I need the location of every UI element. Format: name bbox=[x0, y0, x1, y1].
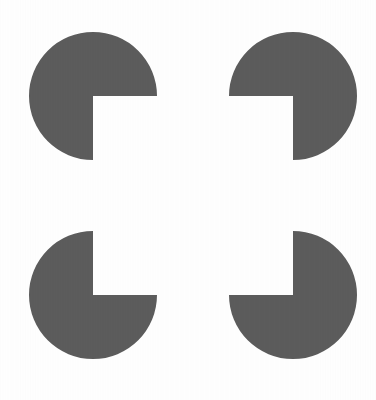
inducer-disc-layer bbox=[0, 0, 376, 400]
kanizsa-svg bbox=[0, 0, 376, 400]
kanizsa-figure-canvas bbox=[0, 0, 376, 400]
